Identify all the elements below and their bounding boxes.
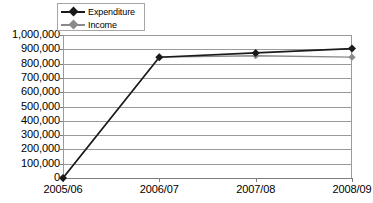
data-point-marker xyxy=(348,45,356,53)
line-chart: 1,000,000900,000800,000700,000600,000500… xyxy=(0,0,373,203)
legend-item-expenditure: Expenditure xyxy=(61,6,141,17)
legend-item-income: Income xyxy=(61,19,141,30)
chart-legend: Expenditure Income xyxy=(57,3,145,31)
legend-label-expenditure: Expenditure xyxy=(85,7,135,17)
data-series-layer xyxy=(0,0,373,203)
diamond-marker-icon xyxy=(69,20,79,30)
legend-label-income: Income xyxy=(85,20,117,30)
diamond-marker-icon xyxy=(69,7,79,17)
legend-key-expenditure xyxy=(61,6,85,17)
data-point-marker xyxy=(348,54,355,61)
series-line-income xyxy=(63,56,352,178)
legend-key-income xyxy=(61,19,85,30)
series-line-expenditure xyxy=(63,49,352,178)
